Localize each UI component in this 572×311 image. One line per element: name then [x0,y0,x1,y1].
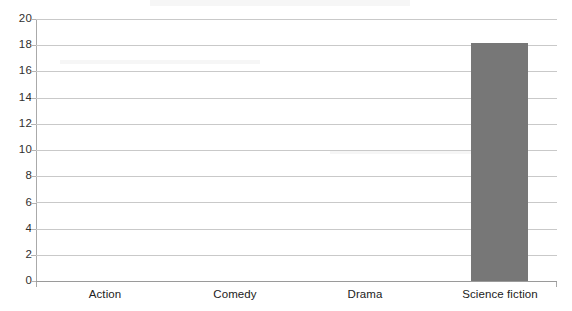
y-tick-label-18: 18 [4,39,32,51]
gridline-20 [36,19,557,20]
y-tick-label-8: 8 [4,170,32,182]
gridline-0-baseline [36,281,557,282]
scan-artifact [150,0,410,6]
category-label-science-fiction: Science fiction [462,288,538,301]
category-label-drama: Drama [347,288,382,301]
bar-science-fiction [471,43,528,281]
y-tick-label-10: 10 [4,144,32,156]
y-tick-label-4: 4 [4,223,32,235]
category-label-action: Action [89,288,122,301]
y-tick-label-6: 6 [4,197,32,209]
y-tick-label-0: 0 [4,275,32,287]
y-tick-label-16: 16 [4,65,32,77]
y-axis-tick-labels: 20 18 16 14 12 10 8 6 4 2 0 [0,0,32,311]
plot-area [36,19,557,281]
y-tick-label-14: 14 [4,92,32,104]
category-label-comedy: Comedy [213,288,256,301]
y-tick-label-20: 20 [4,13,32,25]
y-tick-label-2: 2 [4,249,32,261]
y-tick-label-12: 12 [4,118,32,130]
bar-chart: 20 18 16 14 12 10 8 6 4 2 0 [0,0,572,311]
